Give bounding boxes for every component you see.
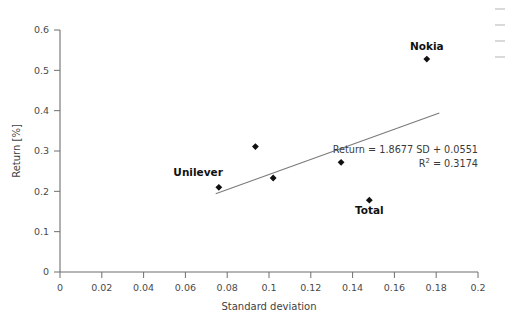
scatter-plot-svg: 00.10.20.30.40.50.6 00.020.040.060.080.1… [0, 0, 507, 326]
r-squared-value: = 0.3174 [430, 158, 478, 169]
data-point-marker [338, 159, 345, 166]
data-point-label: Total [355, 204, 384, 216]
y-tick-label: 0.6 [34, 24, 49, 35]
x-tick-label: 0.2 [470, 282, 485, 293]
data-point-label: Nokia [410, 40, 444, 52]
regression-equation-text: Return = 1.8677 SD + 0.0551 [333, 144, 478, 155]
regression-annotation: Return = 1.8677 SD + 0.0551 R2 = 0.3174 [333, 144, 478, 169]
data-point-marker [366, 197, 373, 204]
data-point-marker [423, 56, 430, 63]
x-tick-label: 0.16 [384, 282, 405, 293]
r-squared-text: R2 = 0.3174 [419, 157, 478, 169]
x-tick-label: 0.04 [133, 282, 154, 293]
y-axis-title: Return [%] [11, 124, 22, 178]
y-tick-label: 0.4 [34, 105, 49, 116]
x-tick-label: 0.1 [261, 282, 276, 293]
data-point-marker [270, 175, 277, 182]
page-edge-artifact [495, 8, 505, 96]
edge-artifact-line [495, 40, 505, 42]
x-tick-label: 0.06 [175, 282, 196, 293]
data-point-marker [252, 143, 259, 150]
x-tick-label: 0.08 [217, 282, 238, 293]
x-tick-label: 0.02 [91, 282, 112, 293]
edge-artifact-line [495, 8, 505, 10]
x-tick-label: 0.12 [300, 282, 321, 293]
x-tick-label: 0 [57, 282, 63, 293]
y-tick-label: 0.5 [34, 65, 49, 76]
chart-figure: 00.10.20.30.40.50.6 00.020.040.060.080.1… [0, 0, 507, 326]
data-points-group [215, 56, 430, 204]
y-tick-label: 0 [43, 266, 49, 277]
edge-artifact-line [495, 24, 505, 26]
x-axis-ticks: 00.020.040.060.080.10.120.140.160.180.2 [57, 272, 486, 293]
data-point-labels-group: UnileverTotalNokia [173, 40, 443, 216]
data-point-label: Unilever [173, 166, 223, 178]
data-point-marker [215, 184, 222, 191]
y-tick-label: 0.3 [34, 145, 49, 156]
edge-artifact-line [495, 56, 505, 58]
y-tick-label: 0.1 [34, 226, 49, 237]
x-tick-label: 0.18 [426, 282, 447, 293]
x-axis-title: Standard deviation [221, 301, 316, 312]
y-axis-ticks: 00.10.20.30.40.50.6 [34, 24, 60, 277]
x-tick-label: 0.14 [342, 282, 363, 293]
y-tick-label: 0.2 [34, 186, 49, 197]
